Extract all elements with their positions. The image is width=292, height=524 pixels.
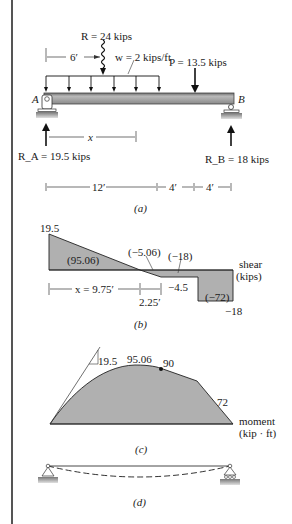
dimension-4ft-label-1: 4′ <box>169 181 177 193</box>
distributed-load-label: w = 2 kips/ft <box>115 51 171 63</box>
reaction-b-label: R_B = 18 kips <box>205 153 269 165</box>
shear-axis-label-1: shear <box>239 258 262 270</box>
moment-axis-label-1: moment <box>239 415 275 427</box>
caption-b: (b) <box>134 318 147 330</box>
shear-dim-x-label: x = 9.75′ <box>75 283 114 295</box>
beam <box>44 93 234 104</box>
dimension-12ft-label: 12′ <box>92 181 105 193</box>
shear-value-neg-4-5: −4.5 <box>168 281 188 293</box>
point-load-label: P = 13.5 kips <box>169 56 227 68</box>
support-a-label: A <box>32 93 39 105</box>
shear-max-label: 19.5 <box>40 222 59 234</box>
moment-point-label: 90 <box>163 357 174 369</box>
x-label: x <box>88 131 93 143</box>
shear-area-positive: (95.06) <box>67 254 99 266</box>
moment-max-label: 95.06 <box>127 353 152 365</box>
shear-axis-label-2: (kips) <box>236 270 262 282</box>
reaction-a-arrow <box>42 123 50 146</box>
resultant-arrow <box>100 40 106 75</box>
dimension-chain <box>46 183 231 191</box>
moment-axis-label-2: (kip · ft) <box>239 427 276 439</box>
shear-value-neg-18: −18 <box>225 305 242 317</box>
distributed-load-arrowheads <box>44 87 161 92</box>
reaction-a-label: R_A = 19.5 kips <box>18 150 90 162</box>
moment-right-label: 72 <box>217 396 228 408</box>
reaction-b-arrow <box>227 125 235 146</box>
distributed-load <box>46 76 159 88</box>
deflection-diagram <box>38 464 240 485</box>
caption-d: (d) <box>133 496 146 508</box>
shear-area-neg-mid: (−18) <box>168 250 193 262</box>
shear-dim-2-25-label: 2.25′ <box>139 296 161 308</box>
caption-c: (c) <box>135 443 147 455</box>
dimension-6ft-label: 6′ <box>70 51 78 63</box>
shear-area-neg-big: (−72) <box>205 291 230 303</box>
caption-a: (a) <box>134 202 147 214</box>
point-load-arrow <box>191 68 199 93</box>
moment-slope-label: 19.5 <box>98 355 117 367</box>
support-b-roller <box>221 105 242 120</box>
support-b-label: B <box>238 93 245 105</box>
dimension-4ft-label-2: 4′ <box>206 181 214 193</box>
shear-area-neg-small: (−5.06) <box>128 246 161 258</box>
resultant-label: R = 24 kips <box>81 30 132 42</box>
